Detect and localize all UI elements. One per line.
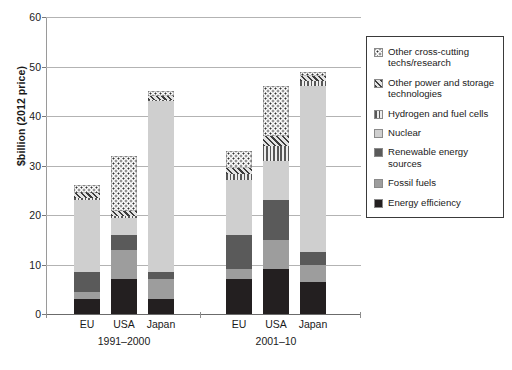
bar-stack (74, 185, 100, 314)
x-axis-tick-label: Japan (147, 318, 176, 330)
x-axis-tick-label: USA (265, 318, 287, 330)
legend-item-label: Hydrogen and fuel cells (388, 108, 488, 119)
gridline (46, 67, 361, 68)
y-axis-tick-label: 50 (29, 61, 41, 72)
bar-segment (263, 269, 289, 314)
legend-item-label: Energy efficiency (388, 197, 461, 208)
x-axis-tick-label: EU (80, 318, 95, 330)
y-axis-tick-mark (42, 215, 46, 216)
bar-segment (263, 240, 289, 270)
bar-stack (226, 151, 252, 314)
y-axis-tick-label: 30 (29, 160, 41, 171)
y-axis-tick-mark (42, 17, 46, 18)
diagonal-hatch-swatch (374, 79, 383, 88)
bar-segment (263, 200, 289, 240)
bar-segment (111, 279, 137, 314)
x-axis-tick-label: Japan (299, 318, 328, 330)
bar-segment (300, 265, 326, 282)
y-axis-tick-label: 20 (29, 210, 41, 221)
legend-item-label: Other cross-cutting techs/research (388, 46, 497, 69)
bar-segment (74, 292, 100, 299)
legend-item: Energy efficiency (374, 197, 497, 208)
bar-segment (300, 282, 326, 314)
plot-area: 0102030405060 (46, 17, 361, 315)
bar-segment (226, 279, 252, 314)
x-axis-group-label: 2001–10 (256, 335, 297, 347)
x-axis-group-separator (200, 312, 201, 318)
light-gray-swatch (374, 129, 383, 138)
legend-item: Nuclear (374, 127, 497, 138)
bar-stack (263, 86, 289, 314)
bar-segment (263, 161, 289, 201)
bar-segment (263, 86, 289, 136)
legend-item-label: Fossil fuels (388, 177, 436, 188)
gridline (46, 17, 361, 18)
y-axis-tick-mark (42, 265, 46, 266)
bar-segment (300, 86, 326, 252)
bar-stack (111, 156, 137, 314)
legend-item: Other power and storage technologies (374, 77, 497, 100)
bar-segment (226, 151, 252, 168)
y-axis-tick-label: 60 (29, 12, 41, 23)
bar-segment (111, 156, 137, 211)
medium-gray-swatch (374, 179, 383, 188)
chart-legend: Other cross-cutting techs/researchOther … (366, 36, 504, 218)
dark-gray-swatch (374, 148, 383, 157)
legend-item: Hydrogen and fuel cells (374, 108, 497, 119)
y-axis-tick-label: 0 (35, 309, 41, 320)
stacked-bar-chart: $billion (2012 price) 0102030405060 EUUS… (0, 0, 512, 370)
x-axis-tick-label: EU (232, 318, 247, 330)
bar-segment (74, 272, 100, 292)
bar-segment (74, 299, 100, 314)
bar-segment (148, 272, 174, 279)
bar-segment (111, 250, 137, 280)
bar-segment (111, 235, 137, 250)
legend-item-label: Renewable energy sources (388, 146, 497, 169)
bar-segment (300, 252, 326, 264)
bar-segment (148, 279, 174, 299)
bar-segment (226, 269, 252, 279)
bar-segment (263, 136, 289, 146)
vertical-lines-swatch (374, 110, 383, 119)
bar-stack (300, 72, 326, 314)
bar-segment (111, 218, 137, 235)
x-axis-group-separator (360, 312, 361, 318)
bar-segment (74, 185, 100, 192)
legend-item: Renewable energy sources (374, 146, 497, 169)
x-axis-tick-label: USA (113, 318, 135, 330)
y-axis-tick-label: 10 (29, 259, 41, 270)
dotted-swatch (374, 48, 383, 57)
legend-item-label: Nuclear (388, 127, 421, 138)
y-axis-tick-mark (42, 116, 46, 117)
bar-segment (263, 146, 289, 161)
x-axis-group-label: 1991–2000 (98, 335, 151, 347)
bar-segment (148, 299, 174, 314)
x-axis-group-separator (46, 312, 47, 318)
legend-item: Fossil fuels (374, 177, 497, 188)
y-axis-tick-mark (42, 67, 46, 68)
y-axis-tick-label: 40 (29, 111, 41, 122)
x-axis-baseline (46, 314, 361, 315)
x-axis-labels: EUUSAJapanEUUSAJapan1991–20002001–10 (46, 318, 361, 354)
legend-item-label: Other power and storage technologies (388, 77, 497, 100)
black-swatch (374, 199, 383, 208)
bar-stack (148, 91, 174, 314)
bar-segment (226, 180, 252, 234)
bar-segment (148, 101, 174, 272)
bar-segment (74, 200, 100, 272)
y-axis-tick-mark (42, 166, 46, 167)
bar-segment (226, 235, 252, 270)
legend-item: Other cross-cutting techs/research (374, 46, 497, 69)
y-axis-title: $billion (2012 price) (15, 21, 27, 211)
